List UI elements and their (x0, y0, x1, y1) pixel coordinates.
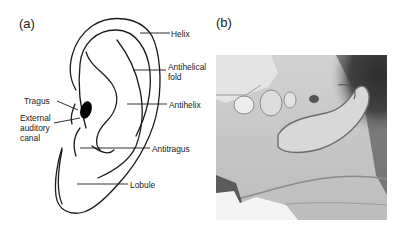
annotation-antihelix: Antihelix (169, 100, 201, 110)
annotation-external-auditory-canal: External auditory canal (20, 113, 64, 143)
panel-b-label: (b) (216, 16, 232, 30)
infant-ear-photo (216, 55, 387, 220)
annotation-antihelical-fold: Antihelical fold (168, 62, 208, 82)
annotation-helix: Helix (171, 29, 190, 39)
annotation-lobule: Lobule (130, 180, 155, 190)
ear-anatomy-diagram: Helix Antihelical fold Antihelix Tragus … (0, 0, 206, 239)
annotation-antitragus: Antitragus (152, 144, 190, 154)
annotation-tragus: Tragus (24, 96, 50, 106)
photo-approximation (216, 55, 387, 220)
